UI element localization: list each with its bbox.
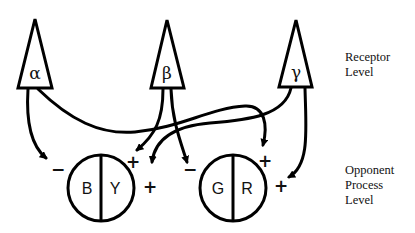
arrow-beta-to-y: [137, 89, 163, 150]
receptor-alpha-label: α: [29, 63, 41, 83]
sign-by-plus-top: +: [126, 152, 140, 172]
unit-y-label: Y: [110, 180, 121, 197]
opponent-process-diagram: α β γ B Y G R − + + − + + Receptor Level…: [0, 0, 415, 233]
opponent-level-line3: Level: [345, 193, 374, 207]
receptor-beta-label: β: [162, 63, 172, 83]
opponent-unit-green-red: G R: [200, 155, 266, 221]
receptor-gamma-label: γ: [291, 62, 301, 82]
receptor-level-label: Receptor Level: [345, 50, 391, 79]
opponent-level-label: Opponent Process Level: [345, 163, 395, 207]
arrow-alpha-to-b: [28, 89, 46, 158]
opponent-level-line2: Process: [345, 178, 383, 192]
receptor-beta: β: [151, 20, 184, 88]
receptor-gamma: γ: [279, 20, 312, 87]
unit-r-label: R: [241, 180, 253, 197]
sign-gr-plus-right: +: [274, 176, 288, 196]
receptor-level-line2: Level: [345, 65, 374, 79]
receptor-level-line1: Receptor: [345, 50, 391, 64]
unit-b-label: B: [82, 180, 93, 197]
unit-g-label: G: [212, 180, 224, 197]
sign-gr-plus-top: +: [258, 151, 272, 171]
arrow-gamma-to-r: [289, 88, 306, 177]
opponent-unit-blue-yellow: B Y: [68, 155, 134, 221]
receptor-alpha: α: [18, 19, 52, 88]
sign-gr-minus: −: [183, 159, 197, 179]
opponent-level-line1: Opponent: [345, 163, 395, 177]
sign-by-plus-right: +: [143, 177, 157, 197]
sign-by-minus: −: [51, 159, 65, 179]
